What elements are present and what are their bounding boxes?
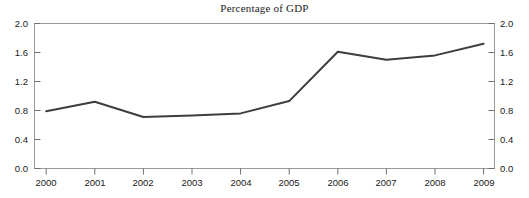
y-axis-right-label-1: 0.4 (500, 134, 526, 145)
y-axis-right-label-0: 0.0 (500, 163, 526, 174)
y-axis-right-label-5: 2.0 (500, 18, 526, 29)
x-axis-label-2004: 2004 (221, 177, 261, 188)
y-axis-right-label-3: 1.2 (500, 76, 526, 87)
x-axis-label-2008: 2008 (415, 177, 455, 188)
plot-frame (35, 24, 495, 169)
line-chart-plot (0, 0, 529, 198)
y-axis-left-label-2: 0.8 (2, 105, 28, 116)
y-axis-left-label-1: 0.4 (2, 134, 28, 145)
chart-figure: Percentage of GDP (0, 0, 529, 198)
y-axis-left-label-4: 1.6 (2, 47, 28, 58)
x-axis-label-2007: 2007 (366, 177, 406, 188)
x-axis-label-2003: 2003 (172, 177, 212, 188)
data-series-line (46, 44, 483, 117)
y-axis-left-label-5: 2.0 (2, 18, 28, 29)
y-axis-left-ticks (35, 24, 41, 169)
y-axis-right-ticks (489, 24, 495, 169)
y-axis-left-label-0: 0.0 (2, 163, 28, 174)
x-axis-label-2005: 2005 (269, 177, 309, 188)
x-axis-label-2002: 2002 (123, 177, 163, 188)
x-axis-label-2006: 2006 (318, 177, 358, 188)
y-axis-right-label-2: 0.8 (500, 105, 526, 116)
x-axis-label-2000: 2000 (26, 177, 66, 188)
x-axis-label-2001: 2001 (75, 177, 115, 188)
x-axis-label-2009: 2009 (464, 177, 504, 188)
y-axis-right-label-4: 1.6 (500, 47, 526, 58)
y-axis-left-label-3: 1.2 (2, 76, 28, 87)
x-axis-ticks (46, 169, 483, 175)
